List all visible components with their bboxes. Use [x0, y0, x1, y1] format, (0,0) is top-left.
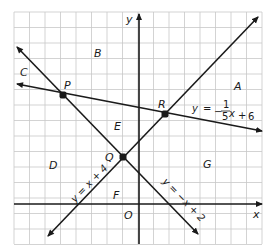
region-label-c: C — [20, 66, 28, 79]
coordinate-plane-diagram: x y O ABCDEFG PQR y = x + 4y = −x + 2 y … — [0, 0, 280, 251]
point-label-r: R — [158, 98, 166, 111]
region-labels: ABCDEFG — [20, 47, 242, 202]
svg-text:5: 5 — [222, 111, 228, 122]
region-label-g: G — [203, 158, 212, 171]
line-0 — [48, 17, 258, 236]
svg-text:6: 6 — [248, 111, 254, 122]
point-r — [162, 111, 169, 118]
region-label-b: B — [94, 47, 102, 60]
svg-text:x: x — [228, 108, 235, 119]
svg-text:+: + — [238, 110, 246, 121]
x-axis-label: x — [252, 208, 260, 221]
y-axis-label: y — [125, 13, 133, 26]
region-label-e: E — [114, 120, 121, 133]
region-label-f: F — [113, 189, 120, 202]
point-p — [60, 92, 67, 99]
point-q — [120, 154, 127, 161]
line-1 — [17, 47, 198, 234]
point-label-p: P — [64, 79, 71, 92]
origin-label: O — [124, 209, 133, 222]
svg-text:=: = — [203, 103, 211, 114]
svg-text:y: y — [191, 103, 199, 114]
region-label-a: A — [233, 80, 242, 93]
point-label-q: Q — [105, 151, 114, 164]
equation-label-0: y = x + 4 — [68, 162, 110, 205]
grid — [14, 12, 262, 245]
region-label-d: D — [49, 159, 57, 172]
